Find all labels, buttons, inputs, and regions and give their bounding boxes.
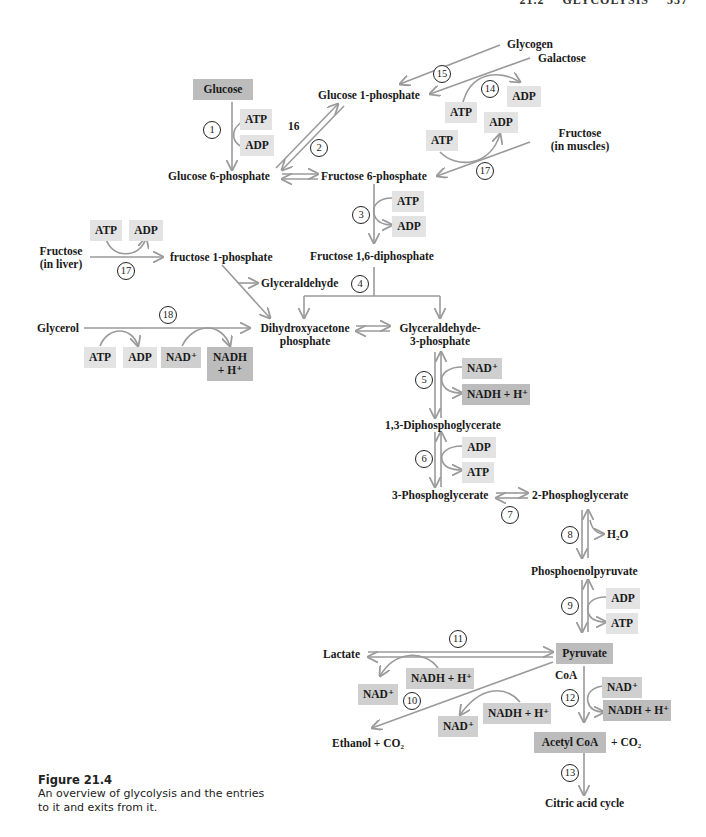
- figure-caption: Figure 21.4 An overview of glycolysis an…: [38, 773, 278, 815]
- step-5-marker: 5: [415, 371, 433, 389]
- adp-box-step3: ADP: [392, 216, 426, 237]
- atp-box-step1: ATP: [240, 109, 272, 130]
- step-16-label: 16: [288, 120, 300, 132]
- nadh-line1: NADH: [212, 351, 248, 364]
- ethanol-co2-label: Ethanol + CO₂: [332, 737, 404, 750]
- atp-box-step18: ATP: [84, 347, 116, 368]
- step-12-marker: 12: [561, 689, 579, 707]
- glyceraldehyde-label: Glyceraldehyde: [261, 277, 338, 290]
- glycerol-label: Glycerol: [37, 322, 79, 335]
- step-17-muscle-marker: 17: [476, 162, 494, 180]
- atp-box-step14: ATP: [445, 102, 477, 123]
- step-7-marker: 7: [501, 506, 519, 524]
- step-1-marker: 1: [203, 121, 221, 139]
- adp-box-step17-muscle: ADP: [484, 112, 518, 133]
- atp-box-step17-liver: ATP: [90, 220, 122, 241]
- step-11-marker: 11: [449, 630, 467, 648]
- step-8-marker: 8: [561, 526, 579, 544]
- nad-box-step18: NAD⁺: [161, 347, 201, 368]
- acetyl-coa-box: Acetyl CoA: [534, 732, 606, 753]
- nadh-box-step12: NADH + H⁺: [603, 700, 671, 721]
- step-6-marker: 6: [415, 450, 433, 468]
- figure-title: Figure 21.4: [38, 773, 278, 787]
- nad-box-step12: NAD⁺: [602, 677, 642, 698]
- adp-box-step9: ADP: [606, 588, 640, 609]
- glycogen-label: Glycogen: [507, 38, 553, 51]
- fructose-muscles-label: Fructose (in muscles): [536, 127, 624, 153]
- fructose-liver-label: Fructose (in liver): [36, 245, 86, 271]
- atp-box-step9: ATP: [606, 613, 638, 634]
- nadh-box-step5: NADH + H⁺: [462, 384, 530, 405]
- dhap-label: Dihydroxyacetone phosphate: [255, 322, 355, 348]
- step-3-marker: 3: [352, 206, 370, 224]
- g3p-line2: 3-phosphate: [392, 335, 488, 348]
- fructose-1-phosphate-label: fructose 1-phosphate: [170, 251, 273, 264]
- water-label: H₂O: [607, 528, 628, 541]
- step-10-marker: 10: [403, 692, 421, 710]
- step-15-marker: 15: [433, 65, 451, 83]
- step-17-liver-marker: 17: [117, 262, 135, 280]
- coa-label: CoA: [555, 669, 577, 682]
- nadh-box-step11: NADH + H⁺: [406, 668, 474, 689]
- fructose-liver-line2: (in liver): [36, 258, 86, 271]
- citric-acid-cycle-label: Citric acid cycle: [545, 797, 624, 810]
- glucose-box: Glucose: [193, 79, 253, 100]
- glucose-1-phosphate-label: Glucose 1-phosphate: [318, 89, 420, 102]
- plus-co2-label: + CO₂: [611, 736, 641, 749]
- fructose-liver-line1: Fructose: [36, 245, 86, 258]
- glucose-6-phosphate-label: Glucose 6-phosphate: [168, 170, 270, 183]
- nadh-box-step18: NADH + H⁺: [207, 347, 253, 381]
- 3-phosphoglycerate-label: 3-Phosphoglycerate: [392, 489, 488, 502]
- step-9-marker: 9: [561, 597, 579, 615]
- atp-box-step6: ATP: [462, 462, 494, 483]
- fructose-16-diphosphate-label: Fructose 1,6-diphosphate: [310, 250, 434, 263]
- pyruvate-box: Pyruvate: [556, 643, 613, 664]
- 13-diphosphoglycerate-label: 1,3-Diphosphoglycerate: [385, 419, 501, 432]
- g3p-label: Glyceraldehyde- 3-phosphate: [392, 322, 488, 348]
- step-4-marker: 4: [351, 275, 369, 293]
- g3p-line1: Glyceraldehyde-: [392, 322, 488, 335]
- atp-box-step17-muscle: ATP: [426, 130, 458, 151]
- dhap-line2: phosphate: [255, 335, 355, 348]
- nad-box-step10: NAD⁺: [438, 716, 478, 737]
- atp-box-step3: ATP: [392, 191, 424, 212]
- dhap-line1: Dihydroxyacetone: [255, 322, 355, 335]
- phosphoenolpyruvate-label: Phosphoenolpyruvate: [531, 565, 638, 578]
- fructose-muscles-line1: Fructose: [536, 127, 624, 140]
- nadh-box-step10: NADH + H⁺: [483, 703, 551, 724]
- 2-phosphoglycerate-label: 2-Phosphoglycerate: [532, 489, 628, 502]
- nad-box-step11: NAD⁺: [358, 684, 398, 705]
- nadh-line2: + H⁺: [212, 364, 248, 377]
- lactate-label: Lactate: [323, 648, 360, 661]
- adp-box-step1: ADP: [240, 135, 274, 156]
- fructose-6-phosphate-label: Fructose 6-phosphate: [321, 170, 427, 183]
- step-2-marker: 2: [310, 139, 328, 157]
- adp-box-step18: ADP: [123, 347, 157, 368]
- step-13-marker: 13: [561, 764, 579, 782]
- pathway-arrows: [0, 0, 706, 837]
- fructose-muscles-line2: (in muscles): [536, 140, 624, 153]
- step-14-marker: 14: [481, 80, 499, 98]
- figure-description: An overview of glycolysis and the entrie…: [38, 787, 278, 815]
- step-18-marker: 18: [159, 306, 177, 324]
- galactose-label: Galactose: [538, 52, 586, 65]
- nad-box-step5: NAD⁺: [462, 358, 502, 379]
- adp-box-step14: ADP: [507, 86, 541, 107]
- adp-box-step17-liver: ADP: [129, 220, 163, 241]
- adp-box-step6: ADP: [462, 437, 496, 458]
